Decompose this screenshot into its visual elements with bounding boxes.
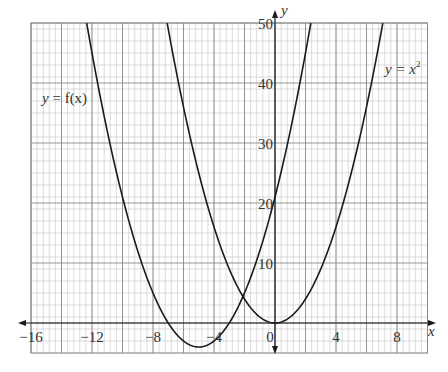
x-tick-label: 0: [266, 329, 274, 345]
grid-border: [31, 23, 428, 353]
y-axis-label: y: [279, 2, 288, 18]
graph-plot: xy−16−12−8−40481020304050 y = f(x)y = x2: [0, 0, 448, 372]
y-tick-label: 20: [258, 196, 273, 212]
grid-minor-lines: [31, 23, 428, 353]
series-label-x-squared: y = x2: [383, 59, 420, 77]
x-axis-left-arrow-icon: [18, 320, 26, 326]
axes: [18, 10, 436, 354]
x-tick-label: −4: [206, 329, 222, 345]
y-tick-label: 50: [258, 16, 273, 32]
x-tick-label: −12: [80, 329, 103, 345]
y-tick-label: 30: [258, 136, 273, 152]
series-label-rest: = f(x): [49, 90, 87, 107]
series-label-var: y: [40, 90, 49, 106]
series-label-rest: = x: [392, 61, 417, 77]
x-tick-label: −8: [145, 329, 161, 345]
x-tick-label: 4: [332, 329, 340, 345]
series-label-f-of-x: y = f(x): [40, 90, 87, 107]
y-tick-label: 10: [258, 256, 273, 272]
x-axis-label: x: [427, 323, 435, 339]
series-label-exponent: 2: [416, 59, 421, 69]
series-label-var: y: [383, 61, 392, 77]
x-tick-label: −16: [19, 329, 43, 345]
grid-major-lines: [31, 23, 428, 353]
x-tick-label: 8: [393, 329, 401, 345]
y-tick-label: 40: [258, 76, 273, 92]
